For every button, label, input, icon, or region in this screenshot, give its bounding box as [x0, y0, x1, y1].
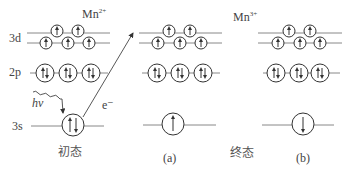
final-state-b-group [258, 25, 342, 135]
3d-orbital-up [51, 25, 63, 37]
level-label-2p: 2p [9, 66, 21, 78]
electron-label: e⁻ [102, 99, 114, 111]
2p-orbital-paired [59, 64, 77, 82]
photon-label: hν [32, 97, 43, 109]
3d-orbital-up [40, 37, 52, 49]
initial-state-group [27, 25, 133, 136]
3d-orbital-up [83, 37, 95, 49]
level-label-3s: 3s [12, 120, 23, 132]
3s-orbital-paired [62, 114, 84, 136]
2p-orbital-paired [82, 64, 100, 82]
3s-orbital-spin-up [162, 113, 184, 135]
2p-orbital-paired [36, 64, 54, 82]
3d-orbital-up [62, 37, 74, 49]
3s-orbital-spin-down [292, 113, 314, 135]
panel-b-tag: (b) [296, 152, 310, 164]
3d-orbital-up [72, 25, 84, 37]
final-state-caption: 终态 [230, 147, 254, 159]
level-label-3d: 3d [9, 32, 21, 44]
initial-ion-label: Mn2+ [82, 8, 106, 20]
final-ion-label: Mn3+ [233, 11, 257, 23]
initial-state-caption: 初态 [58, 146, 82, 158]
panel-a-tag: (a) [163, 152, 176, 164]
final-state-a-group [139, 25, 222, 135]
